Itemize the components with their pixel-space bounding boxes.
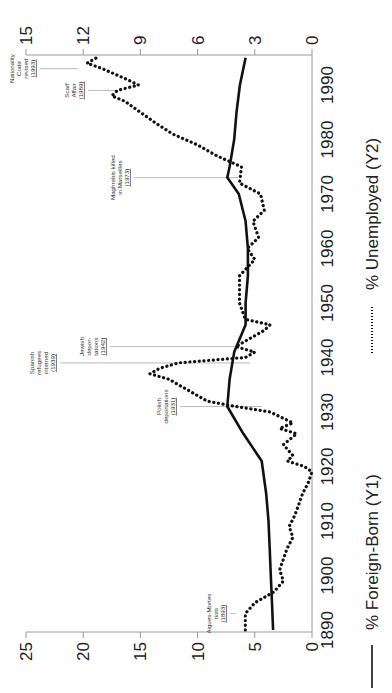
- y2-tick-label: 3: [246, 36, 265, 45]
- axes: 0369121505101520251890190019101920193019…: [17, 26, 337, 661]
- year-tick-label: 1980: [318, 121, 337, 159]
- year-tick-label: 1900: [318, 557, 337, 595]
- annotation-year: (1973): [123, 169, 130, 187]
- y2-tick-label: 0: [303, 36, 322, 45]
- year-tick-label: 1890: [318, 611, 337, 649]
- annotation-text: Spanish: [28, 351, 35, 374]
- event-annotations: Aigues-Mortesriots(1893)Polishdeportatio…: [8, 53, 262, 633]
- year-tick-label: 1920: [318, 448, 337, 486]
- year-tick-label: 1990: [318, 66, 337, 104]
- y2-tick-label: 12: [74, 26, 93, 45]
- year-tick-label: 1910: [318, 502, 337, 540]
- annotation-text: interned: [42, 351, 49, 374]
- annotation-text: depor-: [85, 338, 92, 356]
- annotation-text: riots: [212, 608, 219, 620]
- legend: % Foreign-Born (Y1)% Unemployed (Y2): [363, 138, 382, 688]
- annotation-year: (1942): [99, 338, 106, 356]
- y1-tick-label: 25: [17, 642, 36, 661]
- y1-tick-label: 20: [74, 642, 93, 661]
- annotation-text: Maghrebis killed: [109, 155, 116, 200]
- annotation-text: refugees: [35, 351, 42, 375]
- annotation-text: Nationality: [8, 53, 15, 83]
- annotation-year: (1893): [219, 605, 226, 623]
- y2-tick-label: 9: [131, 36, 150, 45]
- y1-tick-label: 10: [189, 642, 208, 661]
- legend-foreign-born-label: % Foreign-Born (Y1): [363, 474, 382, 630]
- data-series: [87, 58, 312, 630]
- annotation-year: (1939): [49, 354, 56, 372]
- year-tick-label: 1940: [318, 339, 337, 377]
- annotation-text: Scarf: [63, 83, 70, 98]
- annotation-text: revised: [22, 58, 29, 79]
- foreign-born-line: [227, 58, 273, 630]
- annotation-text: Jewish: [78, 337, 85, 356]
- year-tick-label: 1950: [318, 284, 337, 322]
- annotation-year: (1993): [29, 60, 36, 78]
- annotation-year: (1989): [77, 82, 84, 100]
- y2-tick-label: 15: [17, 26, 36, 45]
- year-tick-label: 1970: [318, 175, 337, 213]
- legend-unemployed-label: % Unemployed (Y2): [363, 138, 382, 290]
- annotation-text: deportations: [162, 390, 169, 424]
- y1-tick-label: 15: [131, 642, 150, 661]
- year-tick-label: 1930: [318, 393, 337, 431]
- annotation-text: Aigues-Mortes: [205, 594, 212, 634]
- annotation-text: tations: [92, 337, 99, 355]
- year-tick-label: 1960: [318, 230, 337, 268]
- annotation-text: Code: [15, 61, 22, 76]
- y1-tick-label: 5: [246, 642, 265, 651]
- annotation-text: Affair: [70, 83, 77, 97]
- y2-tick-label: 6: [189, 36, 208, 45]
- annotation-text: Polish: [155, 398, 162, 415]
- annotation-text: in Marseilles: [116, 160, 123, 194]
- rotated-line-chart: 0369121505101520251890190019101920193019…: [0, 0, 392, 693]
- annotation-year: (1931): [169, 398, 176, 416]
- unemployed-line: [87, 58, 312, 630]
